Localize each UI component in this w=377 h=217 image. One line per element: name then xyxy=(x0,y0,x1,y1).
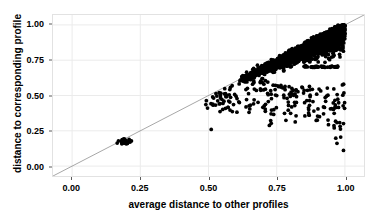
data-point xyxy=(338,26,342,30)
data-point xyxy=(324,99,328,103)
data-point xyxy=(288,61,292,65)
data-point xyxy=(254,89,258,93)
data-point xyxy=(340,39,344,43)
data-point xyxy=(320,35,324,39)
data-point xyxy=(294,88,298,92)
data-point xyxy=(248,107,252,111)
data-point xyxy=(311,100,315,104)
data-point xyxy=(333,106,337,110)
data-point xyxy=(294,114,298,118)
data-point xyxy=(308,103,312,107)
data-point xyxy=(332,111,336,115)
data-point xyxy=(312,109,316,113)
data-point xyxy=(329,39,333,43)
data-point xyxy=(274,83,278,87)
data-point xyxy=(343,101,347,105)
data-point xyxy=(293,120,297,124)
data-point xyxy=(335,65,339,69)
data-point xyxy=(209,102,213,106)
data-point xyxy=(248,77,252,81)
data-point xyxy=(276,57,280,61)
data-point xyxy=(336,97,340,101)
data-point xyxy=(247,104,251,108)
data-point xyxy=(232,103,236,107)
data-point xyxy=(283,111,287,115)
data-point xyxy=(312,54,316,58)
data-point xyxy=(342,24,346,28)
data-point xyxy=(269,112,273,116)
data-point xyxy=(333,32,337,36)
data-point xyxy=(228,100,232,104)
data-point xyxy=(335,93,339,97)
data-point xyxy=(300,85,304,89)
data-point xyxy=(326,118,330,122)
data-point xyxy=(235,110,239,114)
data-point xyxy=(120,139,124,143)
y-tick-mark xyxy=(49,59,52,60)
data-point xyxy=(222,99,226,103)
data-point xyxy=(338,55,342,59)
data-point xyxy=(306,57,310,61)
data-point xyxy=(291,55,295,59)
y-tick-mark xyxy=(49,131,52,132)
data-point xyxy=(308,85,312,89)
data-point xyxy=(274,61,278,65)
data-point xyxy=(308,93,312,97)
x-tick-label: 0.50 xyxy=(200,183,218,193)
data-point xyxy=(342,122,346,126)
data-point xyxy=(302,88,306,92)
data-point xyxy=(317,44,321,48)
data-point xyxy=(315,118,319,122)
data-point xyxy=(308,99,312,103)
data-point xyxy=(230,84,234,88)
data-point xyxy=(266,66,270,70)
data-point xyxy=(261,105,265,109)
data-point xyxy=(245,80,249,84)
data-point xyxy=(332,27,336,31)
data-point xyxy=(259,88,263,92)
data-point xyxy=(320,50,324,54)
x-tick-mark xyxy=(140,177,141,180)
data-point xyxy=(296,59,300,63)
x-tick-mark xyxy=(277,177,278,180)
data-point xyxy=(274,93,278,97)
data-point xyxy=(322,105,326,109)
data-point xyxy=(285,96,289,100)
data-point xyxy=(259,79,263,83)
data-point xyxy=(328,32,332,36)
data-point xyxy=(252,98,256,102)
data-point xyxy=(340,83,344,87)
data-point xyxy=(266,92,270,96)
data-point xyxy=(283,85,287,89)
data-point xyxy=(206,106,210,110)
data-point xyxy=(334,136,338,140)
data-point xyxy=(217,102,221,106)
data-point xyxy=(283,55,287,59)
data-point xyxy=(263,87,267,91)
data-point xyxy=(287,104,291,108)
data-point xyxy=(305,65,309,69)
data-point xyxy=(237,100,241,104)
data-point xyxy=(315,64,319,68)
data-point xyxy=(333,49,337,53)
data-point xyxy=(242,78,246,82)
data-point xyxy=(115,141,119,145)
data-point xyxy=(247,110,251,114)
data-point xyxy=(229,95,233,99)
y-tick-mark xyxy=(49,166,52,167)
scatter-plot-figure: 0.000.250.500.751.00 0.000.250.500.751.0… xyxy=(0,0,377,217)
data-point xyxy=(245,98,249,102)
data-point xyxy=(341,46,345,50)
data-point xyxy=(321,65,325,69)
x-tick-label: 1.00 xyxy=(337,183,355,193)
data-point xyxy=(266,100,270,104)
data-point xyxy=(330,55,334,59)
data-point xyxy=(215,94,219,98)
data-point xyxy=(332,126,336,130)
data-point xyxy=(221,108,225,112)
data-point xyxy=(315,36,319,40)
data-point xyxy=(286,100,290,104)
data-point xyxy=(293,100,297,104)
y-tick-mark xyxy=(49,95,52,96)
data-point xyxy=(126,142,130,146)
